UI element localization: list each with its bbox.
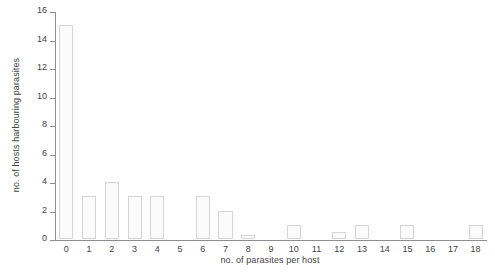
x-tick-label: 13 — [351, 244, 373, 254]
y-tick-label: 0 — [42, 233, 47, 243]
y-tick-label: 6 — [42, 148, 47, 158]
bar — [196, 196, 210, 239]
bar — [469, 225, 483, 239]
x-axis-title: no. of parasites per host — [55, 255, 485, 265]
bar — [400, 225, 414, 239]
bar — [105, 182, 119, 239]
x-tick-label: 12 — [328, 244, 350, 254]
x-tick-label: 11 — [305, 244, 327, 254]
y-tick-label: 16 — [37, 5, 47, 15]
y-tick-mark — [50, 212, 55, 213]
y-tick-mark — [50, 155, 55, 156]
bar — [355, 225, 369, 239]
x-tick-label: 2 — [101, 244, 123, 254]
histogram-chart: no. of hosts harbouring parasites 024681… — [0, 0, 495, 277]
y-tick-label: 4 — [42, 176, 47, 186]
x-tick-label: 7 — [215, 244, 237, 254]
y-tick-mark — [50, 12, 55, 13]
plot-area: 0246810121416 01234567891011121314151617… — [55, 12, 487, 240]
x-tick-label: 9 — [260, 244, 282, 254]
y-tick-mark — [50, 126, 55, 127]
y-tick-label: 10 — [37, 91, 47, 101]
y-tick-label: 12 — [37, 62, 47, 72]
bar — [332, 232, 346, 239]
y-tick-mark — [50, 69, 55, 70]
x-axis-line — [55, 240, 487, 241]
x-tick-label: 1 — [78, 244, 100, 254]
bar — [218, 211, 232, 240]
y-tick-mark — [50, 41, 55, 42]
x-tick-label: 4 — [146, 244, 168, 254]
y-axis-line — [55, 12, 56, 241]
x-tick-label: 0 — [55, 244, 77, 254]
x-tick-label: 14 — [374, 244, 396, 254]
x-tick-label: 18 — [465, 244, 487, 254]
y-tick-label: 8 — [42, 119, 47, 129]
y-tick-mark — [50, 240, 55, 241]
x-tick-label: 5 — [169, 244, 191, 254]
bar — [287, 225, 301, 239]
y-tick-label: 14 — [37, 34, 47, 44]
x-tick-label: 15 — [396, 244, 418, 254]
bar — [150, 196, 164, 239]
x-tick-label: 6 — [192, 244, 214, 254]
x-tick-label: 17 — [442, 244, 464, 254]
bar — [241, 235, 255, 239]
bar — [128, 196, 142, 239]
x-tick-label: 8 — [237, 244, 259, 254]
bar — [59, 25, 73, 239]
y-axis-title: no. of hosts harbouring parasites — [8, 5, 24, 245]
y-tick-mark — [50, 98, 55, 99]
y-tick-mark — [50, 183, 55, 184]
y-tick-label: 2 — [42, 205, 47, 215]
bar — [82, 196, 96, 239]
x-tick-label: 3 — [124, 244, 146, 254]
x-tick-label: 10 — [283, 244, 305, 254]
x-tick-label: 16 — [419, 244, 441, 254]
